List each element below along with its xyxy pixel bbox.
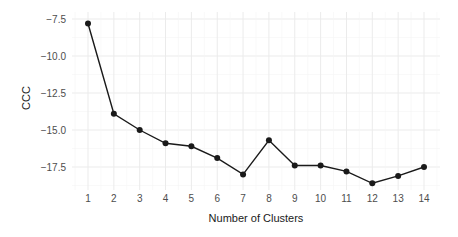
data-point bbox=[163, 140, 169, 146]
x-tick-label: 4 bbox=[163, 193, 169, 204]
x-tick-label: 12 bbox=[367, 193, 379, 204]
data-point bbox=[395, 173, 401, 179]
data-point bbox=[188, 143, 194, 149]
data-point bbox=[343, 168, 349, 174]
data-point bbox=[85, 20, 91, 26]
x-tick-label: 10 bbox=[315, 193, 327, 204]
data-point bbox=[266, 137, 272, 143]
data-point bbox=[137, 127, 143, 133]
x-tick-label: 6 bbox=[214, 193, 220, 204]
x-tick-label: 13 bbox=[393, 193, 405, 204]
data-point bbox=[292, 163, 298, 169]
y-tick-label: −10.0 bbox=[41, 51, 67, 62]
x-tick-label: 1 bbox=[85, 193, 91, 204]
data-point bbox=[214, 155, 220, 161]
x-tick-label: 7 bbox=[240, 193, 246, 204]
y-axis-ticks: −7.5−10.0−12.5−15.0−17.5 bbox=[41, 14, 67, 173]
y-tick-label: −7.5 bbox=[46, 14, 66, 25]
data-point bbox=[421, 164, 427, 170]
x-axis-ticks: 1234567891011121314 bbox=[85, 193, 430, 204]
ccc-line-chart: −7.5−10.0−12.5−15.0−17.5 123456789101112… bbox=[0, 0, 458, 237]
y-tick-label: −15.0 bbox=[41, 125, 67, 136]
x-tick-label: 8 bbox=[266, 193, 272, 204]
x-axis-title: Number of Clusters bbox=[209, 212, 304, 224]
data-point bbox=[240, 171, 246, 177]
data-point bbox=[369, 180, 375, 186]
x-tick-label: 5 bbox=[189, 193, 195, 204]
x-tick-label: 2 bbox=[111, 193, 117, 204]
y-tick-label: −17.5 bbox=[41, 162, 67, 173]
x-tick-label: 9 bbox=[292, 193, 298, 204]
y-tick-label: −12.5 bbox=[41, 88, 67, 99]
grid-lines bbox=[72, 12, 440, 190]
x-tick-label: 11 bbox=[341, 193, 352, 204]
x-tick-label: 3 bbox=[137, 193, 143, 204]
data-point bbox=[111, 111, 117, 117]
y-axis-title: CCC bbox=[20, 86, 32, 110]
data-point bbox=[318, 163, 324, 169]
x-tick-label: 14 bbox=[418, 193, 430, 204]
